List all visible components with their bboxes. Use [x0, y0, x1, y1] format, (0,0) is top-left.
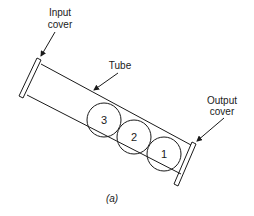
input-cover-label-line2: cover [48, 19, 73, 30]
tube-top-wall [41, 64, 191, 145]
tube-leader-arrow [94, 73, 118, 90]
input-cover-leader-arrow [41, 32, 55, 56]
output-cover-leader-arrow [197, 118, 224, 141]
input-cover-label-line1: Input [49, 7, 71, 18]
tube-diagram: 3 2 1 Input cover Tube Output cover (a) [0, 0, 254, 216]
ball-3-label: 3 [101, 114, 107, 126]
ball-1: 1 [147, 137, 181, 171]
input-cover-plate [19, 58, 41, 98]
tube-bottom-wall [27, 95, 181, 174]
ball-2: 2 [117, 120, 151, 154]
ball-2-label: 2 [131, 131, 137, 143]
input-cover [19, 58, 41, 98]
ball-3: 3 [87, 103, 121, 137]
figure-caption: (a) [106, 193, 118, 204]
tube-label: Tube [109, 60, 132, 71]
output-cover-label-line2: cover [210, 106, 235, 117]
ball-1-label: 1 [161, 148, 167, 160]
output-cover-label-line1: Output [207, 95, 237, 106]
